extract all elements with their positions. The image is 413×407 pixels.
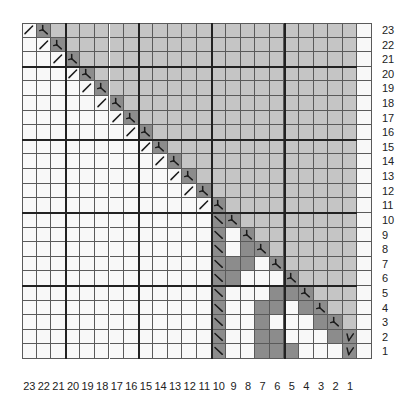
chart-cell xyxy=(95,228,110,243)
chart-cell xyxy=(51,125,66,140)
chart-cell xyxy=(80,184,95,199)
chart-cell xyxy=(110,140,125,155)
chart-cell xyxy=(51,52,66,67)
chart-cell xyxy=(197,23,212,38)
chart-cell xyxy=(182,198,197,213)
chart-cell xyxy=(241,213,256,228)
chart-cell xyxy=(22,184,37,199)
chart-cell xyxy=(241,344,256,359)
chart-cell xyxy=(66,213,81,228)
chart-cell xyxy=(80,67,95,82)
chart-cell xyxy=(95,242,110,257)
chart-cell xyxy=(197,242,212,257)
chart-cell xyxy=(212,286,227,301)
chart-cell xyxy=(357,301,372,316)
row-label: 21 xyxy=(382,52,394,67)
chart-cell xyxy=(168,286,183,301)
chart-cell xyxy=(22,67,37,82)
chart-cell xyxy=(226,38,241,53)
chart-cell xyxy=(182,330,197,345)
chart-cell xyxy=(285,81,300,96)
chart-cell xyxy=(314,96,329,111)
chart-cell xyxy=(51,330,66,345)
chart-cell xyxy=(66,52,81,67)
chart-cell xyxy=(51,96,66,111)
chart-cell xyxy=(270,169,285,184)
chart-cell xyxy=(255,96,270,111)
chart-cell xyxy=(95,286,110,301)
chart-cell xyxy=(80,154,95,169)
chart-cell xyxy=(95,315,110,330)
chart-cell xyxy=(285,330,300,345)
chart-cell xyxy=(95,301,110,316)
chart-cell xyxy=(197,52,212,67)
column-label: 10 xyxy=(212,380,227,392)
chart-cell xyxy=(95,344,110,359)
chart-cell xyxy=(66,23,81,38)
chart-cell xyxy=(153,315,168,330)
chart-cell xyxy=(51,198,66,213)
chart-cell xyxy=(226,213,241,228)
chart-cell xyxy=(124,125,139,140)
chart-cell xyxy=(95,67,110,82)
chart-cell xyxy=(226,96,241,111)
chart-cell xyxy=(37,301,52,316)
chart-cell xyxy=(343,67,358,82)
chart-cell xyxy=(66,81,81,96)
chart-cell xyxy=(226,286,241,301)
chart-cell xyxy=(37,257,52,272)
chart-cell xyxy=(110,242,125,257)
row-label: 6 xyxy=(382,271,388,286)
chart-cell xyxy=(139,228,154,243)
column-label: 4 xyxy=(299,380,314,392)
chart-cell xyxy=(51,140,66,155)
chart-cell xyxy=(357,140,372,155)
chart-cell xyxy=(197,344,212,359)
chart-cell xyxy=(168,81,183,96)
chart-cell xyxy=(255,242,270,257)
chart-cell xyxy=(153,330,168,345)
chart-cell xyxy=(182,315,197,330)
chart-cell xyxy=(241,330,256,345)
row-label: 14 xyxy=(382,154,394,169)
chart-cell xyxy=(357,228,372,243)
chart-cell xyxy=(226,198,241,213)
chart-cell xyxy=(80,286,95,301)
chart-cell xyxy=(66,242,81,257)
chart-cell xyxy=(343,228,358,243)
chart-cell xyxy=(51,257,66,272)
chart-cell xyxy=(241,52,256,67)
chart-cell xyxy=(226,125,241,140)
chart-cell xyxy=(168,154,183,169)
chart-cell xyxy=(328,228,343,243)
chart-cell xyxy=(51,67,66,82)
chart-cell xyxy=(124,198,139,213)
chart-cell xyxy=(212,140,227,155)
chart-cell xyxy=(22,111,37,126)
chart-cell xyxy=(37,228,52,243)
chart-cell xyxy=(285,184,300,199)
chart-cell xyxy=(95,96,110,111)
chart-cell xyxy=(51,301,66,316)
chart-cell xyxy=(285,315,300,330)
chart-cell xyxy=(37,23,52,38)
chart-cell xyxy=(168,301,183,316)
chart-cell xyxy=(241,23,256,38)
column-label: 11 xyxy=(197,380,212,392)
chart-cell xyxy=(66,330,81,345)
chart-cell xyxy=(110,111,125,126)
chart-cell xyxy=(357,111,372,126)
chart-cell xyxy=(299,140,314,155)
chart-cell xyxy=(139,184,154,199)
column-label: 15 xyxy=(139,380,154,392)
chart-cell xyxy=(226,228,241,243)
chart-cell xyxy=(37,315,52,330)
chart-cell xyxy=(95,111,110,126)
chart-cell xyxy=(22,228,37,243)
chart-cell xyxy=(314,81,329,96)
chart-cell xyxy=(241,38,256,53)
chart-cell xyxy=(343,315,358,330)
chart-cell xyxy=(357,242,372,257)
chart-cell xyxy=(66,38,81,53)
chart-cell xyxy=(226,301,241,316)
